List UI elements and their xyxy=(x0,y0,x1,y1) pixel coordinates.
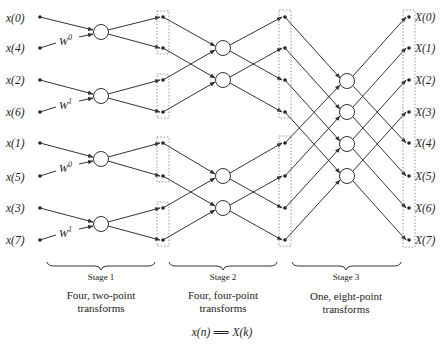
input-labels: x(0) x(4) x(2) x(6) x(1) x(5) x(3) x(7) xyxy=(5,12,25,247)
brace-stage3 xyxy=(292,262,401,270)
twiddle-label: W1 xyxy=(59,97,72,111)
stage-braces xyxy=(47,262,401,270)
output-label: X(2) xyxy=(414,74,436,87)
butterfly-node xyxy=(94,89,109,104)
output-label: X(5) xyxy=(414,170,436,183)
stage1-butterflies xyxy=(94,25,109,232)
input-label: x(6) xyxy=(5,106,25,119)
equation-caption: x(n) ⟹ X(k) xyxy=(191,326,253,339)
output-label: X(4) xyxy=(414,137,436,150)
butterfly-node xyxy=(216,41,231,56)
butterfly-node xyxy=(94,152,109,167)
twiddle-label: W1 xyxy=(59,225,72,239)
stage-desc: transforms xyxy=(199,302,246,314)
output-nodes xyxy=(407,15,411,242)
output-dotted-box xyxy=(403,10,415,247)
stage-label: Stage 2 xyxy=(210,272,237,282)
stage-desc: transforms xyxy=(77,302,124,314)
twiddle-label: W0 xyxy=(59,33,72,47)
input-label: x(2) xyxy=(5,74,25,87)
output-label: X(7) xyxy=(414,234,436,247)
output-label: X(1) xyxy=(414,42,436,55)
stage-desc: Four, four-point xyxy=(188,289,258,301)
stage-descriptions: Four, two-point transforms Four, four-po… xyxy=(67,289,382,315)
stage-label: Stage 1 xyxy=(88,272,115,282)
butterfly-node xyxy=(216,73,231,88)
butterfly-node xyxy=(94,25,109,40)
brace-stage1 xyxy=(47,262,155,270)
stage-desc: One, eight-point xyxy=(310,290,382,302)
input-label: x(1) xyxy=(5,137,25,150)
butterfly-node xyxy=(216,201,231,216)
stage2-dotted-boxes xyxy=(279,10,291,246)
stage-desc: Four, two-point xyxy=(67,289,136,301)
input-label: x(0) xyxy=(5,12,25,25)
butterfly-node xyxy=(216,169,231,184)
input-nodes xyxy=(38,15,42,242)
output-labels: X(0) X(1) X(2) X(3) X(4) X(5) X(6) X(7) xyxy=(414,11,436,247)
input-label: x(5) xyxy=(5,171,25,184)
fft-flow-diagram: x(0) x(4) x(2) x(6) x(1) x(5) x(3) x(7) xyxy=(0,0,445,345)
output-label: X(0) xyxy=(414,11,436,24)
butterfly-node xyxy=(340,137,355,152)
stage-label: Stage 3 xyxy=(333,272,360,282)
butterfly-node xyxy=(340,105,355,120)
input-label: x(4) xyxy=(5,42,25,55)
stage3-lines xyxy=(285,17,406,240)
output-label: X(3) xyxy=(414,106,436,119)
stage3-butterflies xyxy=(340,74,355,184)
brace-stage2 xyxy=(169,262,277,270)
input-label: x(3) xyxy=(5,202,25,215)
butterfly-node xyxy=(94,217,109,232)
twiddle-labels: W0 W1 W0 W1 xyxy=(59,33,72,239)
butterfly-node xyxy=(340,169,355,184)
stage-desc: transforms xyxy=(322,303,369,315)
twiddle-label: W0 xyxy=(59,160,72,174)
stage-labels: Stage 1 Stage 2 Stage 3 xyxy=(88,272,360,282)
stage2-butterflies xyxy=(216,41,231,216)
stage1-lines xyxy=(40,17,160,240)
input-label: x(7) xyxy=(5,234,25,247)
output-label: X(6) xyxy=(414,202,436,215)
butterfly-node xyxy=(340,74,355,89)
